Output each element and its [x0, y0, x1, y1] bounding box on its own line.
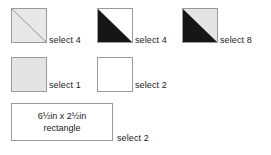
patch-half-square-triangle-gray[interactable]: [11, 8, 47, 43]
solid-square-gray-icon: [12, 58, 46, 91]
rectangle-dimension-line-1: 6½in x 2½in: [12, 111, 112, 123]
half-square-triangle-black-gray-icon: [183, 9, 217, 42]
patch-label-select-2-rectangle: select 2: [117, 133, 149, 144]
half-square-triangle-gray-gray-icon: [12, 9, 46, 42]
patch-solid-square-white[interactable]: [97, 57, 133, 92]
patch-label-select-8: select 8: [220, 35, 252, 46]
rectangle-dimension-text: 6½in x 2½in rectangle: [12, 111, 112, 134]
patch-label-select-2-white: select 2: [135, 80, 167, 91]
solid-square-white-icon: [98, 58, 132, 91]
patch-label-select-4-gray: select 4: [49, 35, 81, 46]
patch-label-select-1: select 1: [49, 80, 81, 91]
patch-rectangle[interactable]: 6½in x 2½in rectangle: [11, 103, 113, 141]
patch-half-square-triangle-black-white[interactable]: [97, 8, 133, 43]
patch-label-select-4-black-white: select 4: [135, 35, 167, 46]
patch-solid-square-gray[interactable]: [11, 57, 47, 92]
half-square-triangle-black-white-icon: [98, 9, 132, 42]
rectangle-dimension-line-2: rectangle: [12, 122, 112, 134]
diagram-canvas: select 4 select 4 select 8 select 1 sele…: [0, 0, 271, 155]
patch-half-square-triangle-black-gray[interactable]: [182, 8, 218, 43]
